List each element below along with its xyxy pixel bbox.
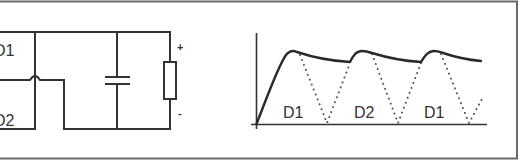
diode-label-d2: D2 [0,112,15,129]
waveform-graph: D1 D2 D1 [251,33,487,129]
positive-terminal-sign: + [177,41,183,53]
figure-frame [0,1,518,159]
pulse-label-d1-second: D1 [424,104,445,121]
negative-terminal-sign: - [178,107,182,119]
rectifier-diagram: + - D1 D2 D1 D2 D1 [0,0,524,161]
capacitor [106,32,129,129]
load-resistor [164,32,176,129]
diode-label-d1: D1 [0,42,15,59]
pulse-label-d1-first: D1 [283,104,304,121]
circuit-schematic: + - D1 D2 [0,32,183,129]
pulse-label-d2: D2 [354,104,375,121]
crossover-wire [0,76,170,129]
rectified-half-waves [300,54,482,123]
